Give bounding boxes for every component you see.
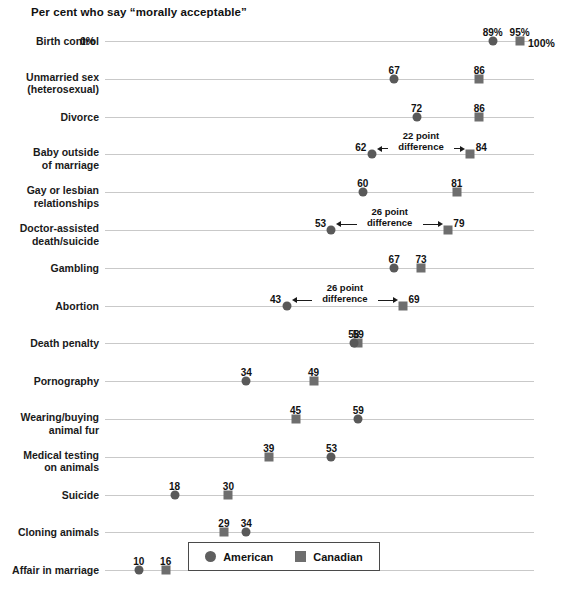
annotation-line-1: 26 point xyxy=(367,206,412,217)
value-label-american: 67 xyxy=(389,254,400,265)
chart-row: Wearing/buying animal fur5945 xyxy=(0,400,561,438)
chart-row: Pornography3449 xyxy=(0,362,561,400)
value-label-canadian: 29 xyxy=(218,518,229,529)
legend-label-american: American xyxy=(223,551,273,563)
value-label-canadian: 69 xyxy=(409,294,420,305)
annotation-arrow-left-line xyxy=(382,148,388,149)
row-axis-line xyxy=(105,306,534,307)
value-label-canadian: 39 xyxy=(263,443,274,454)
annotation-arrow-left-line xyxy=(297,300,312,301)
row-label: Suicide xyxy=(0,489,99,502)
value-label-american: 59 xyxy=(353,405,364,416)
annotation-line-1: 26 point xyxy=(322,282,367,293)
chart-row: Cloning humans1314 xyxy=(0,589,561,593)
annotation-arrow-right-line xyxy=(423,224,438,225)
annotation-arrow-right-line xyxy=(378,300,393,301)
row-label: Medical testing on animals xyxy=(0,449,99,474)
row-label: Abortion xyxy=(0,300,99,313)
row-axis-line xyxy=(105,457,534,458)
chart-container: Per cent who say “morally acceptable” Bi… xyxy=(0,0,561,593)
value-label-american: 67 xyxy=(389,65,400,76)
row-label: Affair in marriage xyxy=(0,564,99,577)
data-point-american xyxy=(282,301,291,310)
value-label-american: 53 xyxy=(315,218,326,229)
value-label-american: 72 xyxy=(411,103,422,114)
annotation-arrowhead-left-icon xyxy=(292,297,297,303)
row-axis-line xyxy=(105,192,534,193)
row-axis-line xyxy=(105,230,534,231)
legend-label-canadian: Canadian xyxy=(313,551,363,563)
annotation-arrow-left-line xyxy=(341,224,356,225)
value-label-american: 53 xyxy=(326,443,337,454)
row-label: Gambling xyxy=(0,262,99,275)
value-label-canadian: 73 xyxy=(415,254,426,265)
value-label-american: 89% xyxy=(483,27,503,38)
data-point-american xyxy=(367,150,376,159)
row-axis-line xyxy=(105,41,534,42)
chart-row: Medical testing on animals5339 xyxy=(0,438,561,476)
annotation-arrowhead-right-icon xyxy=(393,297,398,303)
value-label-american: 18 xyxy=(169,481,180,492)
annotation-line-2: difference xyxy=(367,217,412,228)
row-label: Baby outside of marriage xyxy=(0,146,99,171)
row-axis-line xyxy=(105,117,534,118)
row-axis-line xyxy=(105,79,534,80)
difference-annotation: 22 pointdifference xyxy=(398,130,443,152)
value-label-american: 60 xyxy=(357,178,368,189)
value-label-american: 62 xyxy=(355,142,366,153)
data-point-canadian xyxy=(443,226,452,235)
row-label: Unmarried sex (heterosexual) xyxy=(0,71,99,96)
chart-row: Baby outside of marriage628422 pointdiff… xyxy=(0,135,561,173)
square-marker-icon xyxy=(295,551,306,562)
circle-marker-icon xyxy=(205,551,216,562)
value-label-american: 34 xyxy=(241,518,252,529)
annotation-line-2: difference xyxy=(322,293,367,304)
chart-row: Doctor-assisted death/suicide537926 poin… xyxy=(0,211,561,249)
axis-label-hundred: 100% xyxy=(528,37,555,49)
row-label: Cloning animals xyxy=(0,526,99,539)
annotation-arrowhead-left-icon xyxy=(377,146,382,152)
value-label-canadian: 49 xyxy=(308,367,319,378)
chart-row: Unmarried sex (heterosexual)6786 xyxy=(0,60,561,98)
value-label-canadian: 30 xyxy=(223,481,234,492)
page-title: Per cent who say “morally acceptable” xyxy=(31,6,247,18)
row-axis-line xyxy=(105,419,534,420)
value-label-canadian: 86 xyxy=(474,103,485,114)
annotation-arrowhead-right-icon xyxy=(460,146,465,152)
value-label-canadian: 86 xyxy=(474,65,485,76)
value-label-canadian: 95% xyxy=(510,27,530,38)
value-label-canadian: 59 xyxy=(353,329,364,340)
value-label-canadian: 79 xyxy=(453,218,464,229)
row-label: Gay or lesbian relationships xyxy=(0,184,99,209)
row-label: Death penalty xyxy=(0,337,99,350)
chart-row: Abortion436926 pointdifference xyxy=(0,287,561,325)
row-label: Pornography xyxy=(0,375,99,388)
annotation-arrowhead-right-icon xyxy=(438,221,443,227)
difference-annotation: 26 pointdifference xyxy=(322,282,367,304)
row-axis-line xyxy=(105,343,534,344)
value-label-american: 10 xyxy=(133,556,144,567)
value-label-canadian: 81 xyxy=(451,178,462,189)
chart-row: Gambling6773 xyxy=(0,249,561,287)
row-axis-line xyxy=(105,532,534,533)
legend-item-american: American xyxy=(205,551,273,563)
chart-row: Suicide1830 xyxy=(0,476,561,514)
annotation-arrowhead-left-icon xyxy=(336,221,341,227)
annotation-line-1: 22 point xyxy=(398,130,443,141)
row-label: Doctor-assisted death/suicide xyxy=(0,222,99,247)
value-label-canadian: 45 xyxy=(290,405,301,416)
data-point-canadian xyxy=(399,301,408,310)
chart-row: Death penalty5859 xyxy=(0,324,561,362)
row-axis-line xyxy=(105,268,534,269)
row-label: Wearing/buying animal fur xyxy=(0,411,99,436)
annotation-line-2: difference xyxy=(398,141,443,152)
chart-legend: American Canadian xyxy=(188,542,380,571)
value-label-american: 34 xyxy=(241,367,252,378)
chart-row: Divorce7286 xyxy=(0,98,561,136)
value-label-canadian: 84 xyxy=(476,142,487,153)
value-label-american: 43 xyxy=(270,294,281,305)
data-point-american xyxy=(327,226,336,235)
row-axis-line xyxy=(105,381,534,382)
difference-annotation: 26 pointdifference xyxy=(367,206,412,228)
data-point-canadian xyxy=(466,150,475,159)
